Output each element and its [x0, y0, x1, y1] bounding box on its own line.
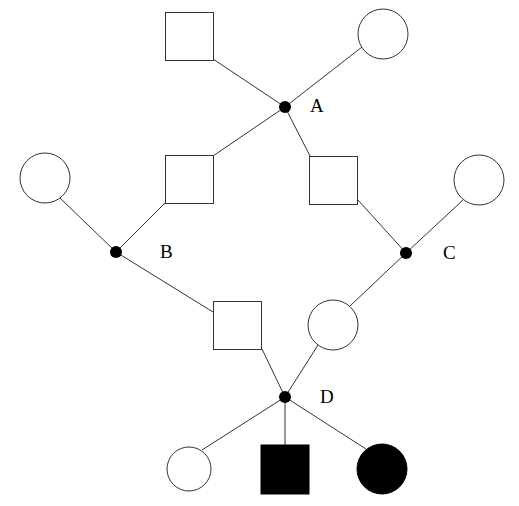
female-affected-icon [357, 444, 407, 494]
pedigree-diagram: A B C D [0, 0, 519, 506]
line-right-son-c [358, 200, 406, 253]
node-c-dot-icon [400, 247, 412, 259]
line-a-right-son [285, 107, 310, 156]
male-unaffected-icon [214, 302, 262, 350]
label-b: B [160, 242, 173, 261]
label-c: C [443, 243, 456, 262]
node-a-dot-icon [279, 101, 291, 113]
male-unaffected-icon [310, 157, 358, 205]
line-a-left-son [213, 107, 285, 156]
line-d-father-d [262, 349, 285, 397]
node-d-dot-icon [279, 391, 291, 403]
line-b-mother-b [60, 198, 116, 252]
node-b-dot-icon [110, 246, 122, 258]
line-gp-male-a [213, 59, 285, 107]
line-d-child1 [202, 397, 285, 450]
female-unaffected-icon [358, 9, 408, 59]
female-unaffected-icon [167, 447, 211, 491]
female-unaffected-icon [308, 300, 358, 350]
pedigree-canvas [0, 0, 519, 506]
line-c-d-mother [350, 253, 406, 306]
female-unaffected-icon [20, 153, 70, 203]
line-left-son-b [116, 203, 165, 252]
label-a: A [310, 96, 324, 115]
male-unaffected-icon [166, 13, 214, 61]
male-unaffected-icon [166, 156, 214, 204]
line-d-mother-d [285, 345, 318, 397]
male-affected-icon [261, 445, 309, 494]
label-d: D [320, 387, 334, 406]
female-unaffected-icon [454, 155, 504, 205]
